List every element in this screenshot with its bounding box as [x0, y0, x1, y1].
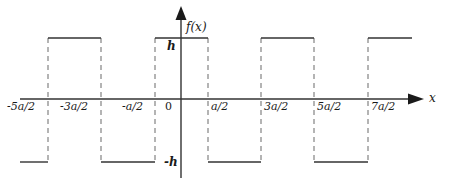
x-tick-label-nega2: -a/2	[122, 101, 143, 112]
square-wave-figure: -5a/2 -3a/2 -a/2 0 a/2 3a/2 5a/2 7a/2 x …	[0, 0, 450, 188]
y-level-label-high: h	[167, 40, 176, 52]
x-tick-label-5a2: 5a/2	[317, 101, 341, 112]
y-axis	[176, 6, 187, 178]
x-tick-label-neg5a2: -5a/2	[7, 101, 35, 112]
x-tick-label-3a2: 3a/2	[264, 101, 288, 112]
y-level-label-low: -h	[164, 156, 178, 168]
function-label: f(x)	[186, 21, 207, 33]
x-axis-label: x	[429, 92, 436, 104]
x-tick-label-7a2: 7a/2	[371, 101, 395, 112]
x-tick-label-neg3a2: -3a/2	[60, 101, 88, 112]
x-tick-label-a2: a/2	[211, 101, 228, 112]
plot-canvas	[0, 0, 450, 188]
x-tick-label-zero: 0	[165, 101, 172, 112]
